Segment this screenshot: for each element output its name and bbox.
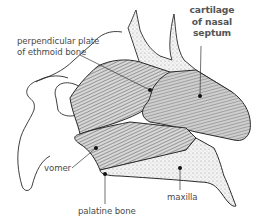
label-line: septum [176,27,248,39]
label-perpendicular-plate: perpendicular plate of ethmoid bone [17,36,99,58]
label-line: of nasal [176,16,248,28]
label-maxilla: maxilla [167,192,197,203]
label-vomer: vomer [44,163,71,174]
nasal-septum-diagram: perpendicular plate of ethmoid bone cart… [0,0,267,224]
label-line: perpendicular plate [17,36,99,47]
label-line: of ethmoid bone [17,47,99,58]
label-palatine-bone: palatine bone [78,206,136,217]
label-line: cartilage [176,4,248,16]
label-cartilage-nasal-septum: cartilage of nasal septum [176,4,248,39]
